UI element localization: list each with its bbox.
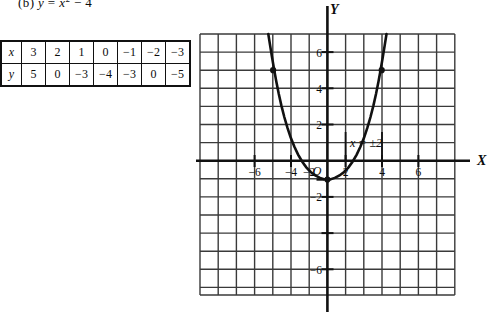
y-tick-label--2: −2 xyxy=(310,191,322,203)
y-tick-label-2: 2 xyxy=(316,119,322,131)
y-tick-label-6: 6 xyxy=(316,47,322,59)
point-marker-vertex xyxy=(324,177,330,183)
point-marker-3-5 xyxy=(379,67,385,73)
y-tick-label--6: −6 xyxy=(310,264,322,276)
y-axis-label: Y xyxy=(330,2,340,17)
annotation-x-equals-plus-minus-2: x = ±2 xyxy=(349,136,382,150)
x-tick-label--6: −6 xyxy=(248,166,260,178)
x-tick-label-6: 6 xyxy=(416,166,422,178)
y-tick-label-4: 4 xyxy=(316,83,322,95)
x-axis-label: X xyxy=(476,153,487,168)
parabola-graph: Y X −6 −4 −2 2 4 6 6 4 2 −2 −6 O xyxy=(0,0,495,321)
x-tick-label-4: 4 xyxy=(379,166,385,178)
point-marker--3-5 xyxy=(270,67,276,73)
x-tick-label--4: −4 xyxy=(285,166,297,178)
